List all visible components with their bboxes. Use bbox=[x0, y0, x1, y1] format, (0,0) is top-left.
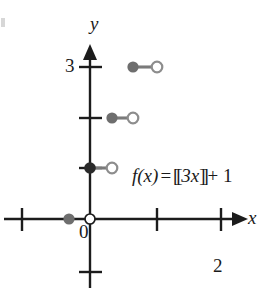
open-dot-y1 bbox=[107, 163, 118, 174]
function-formula: f(x)=[[3x]]+ 1 bbox=[132, 166, 233, 185]
formula-fn-arg: (x) bbox=[137, 165, 158, 186]
graph-canvas bbox=[0, 0, 270, 296]
y-axis-arrowhead bbox=[83, 44, 97, 60]
formula-equals: = bbox=[158, 165, 173, 186]
formula-double-bracket-close: ]] bbox=[199, 165, 207, 186]
step-function-figure: y x 3 0 2 f(x)=[[3x]]+ 1 bbox=[0, 0, 270, 296]
x-tick-label-2: 2 bbox=[213, 256, 223, 275]
x-axis-arrowhead bbox=[232, 212, 248, 226]
open-dot-y2 bbox=[128, 113, 139, 124]
formula-tail: + 1 bbox=[208, 165, 233, 186]
closed-dot-y0 bbox=[63, 213, 74, 224]
y-axis-label: y bbox=[90, 14, 98, 33]
origin-label: 0 bbox=[79, 222, 89, 241]
closed-dot-y1 bbox=[84, 162, 96, 174]
formula-inner: 3x bbox=[181, 165, 199, 186]
y-tick-label-3: 3 bbox=[65, 56, 75, 75]
closed-dot-y3 bbox=[127, 61, 138, 72]
closed-dot-y2 bbox=[106, 112, 117, 123]
open-dot-y3 bbox=[152, 62, 163, 73]
x-axis-label: x bbox=[248, 208, 256, 227]
